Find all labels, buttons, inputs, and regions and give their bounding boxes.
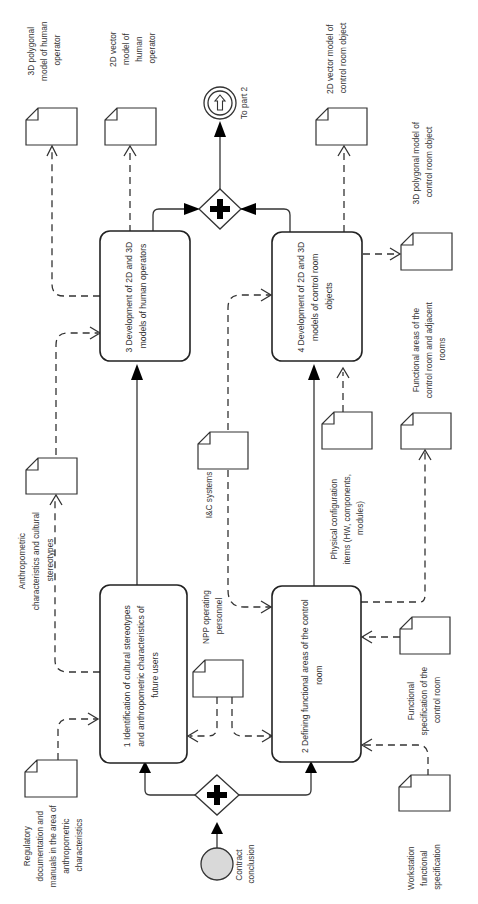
task-3-label-line-1: 3 Development of 2D and 3D — [124, 242, 134, 353]
arrowhead-icon — [240, 203, 256, 215]
doc-areas-label: rooms — [437, 337, 447, 360]
doc-wsspec-label: Workstation — [406, 846, 416, 890]
arrowhead-icon — [211, 822, 223, 834]
document-anthropometric[interactable] — [26, 458, 77, 494]
svg-text:3D polygonal model of cont: 3D polygonal model of control room objec… — [411, 120, 434, 205]
document-npp-personnel[interactable] — [193, 660, 243, 697]
bpmn-diagram: 1 Identification of cultural stereotypes… — [0, 0, 478, 904]
task-2-label-line-1: 2 Defining functional areas of the contr… — [300, 599, 310, 753]
svg-text:Physical configuration ite: Physical configuration items (HW, compon… — [329, 472, 365, 565]
doc-2d-human-label: 2D vector — [108, 31, 118, 67]
arrowhead-icon — [184, 203, 200, 215]
doc-anthropometric-label: characteristics and cultural — [31, 512, 41, 610]
document-physical-config[interactable] — [322, 412, 372, 449]
document-3d-control-room-model[interactable] — [401, 233, 452, 270]
parallel-split-gateway[interactable] — [195, 775, 239, 815]
document-ic-systems[interactable] — [198, 432, 248, 469]
doc-physical-label: items (HW, components, — [342, 474, 352, 564]
svg-text:NPP operating personnel: NPP operating personnel — [201, 588, 224, 644]
arrowhead-icon — [214, 121, 226, 137]
document-functional-areas[interactable] — [401, 413, 451, 449]
doc-2d-human-label: human — [134, 36, 144, 62]
svg-text:Anthropometric characteris: Anthropometric characteristics and cultu… — [17, 510, 55, 611]
task-1-label-line-1: 1 Identification of cultural stereotypes — [122, 605, 132, 747]
doc-funcspec-label: Functional — [406, 682, 416, 720]
svg-text:Workstation functional: Workstation functional specification — [406, 844, 442, 890]
task-2-label-line-2: room — [314, 665, 324, 685]
document-2d-human-model[interactable] — [105, 108, 156, 145]
svg-text:Functional areas of the co: Functional areas of the control room and… — [411, 300, 447, 398]
svg-text:To part 2: To part 2 — [239, 86, 249, 119]
svg-text:Regulatory documentation a: Regulatory documentation and manuals in … — [22, 803, 84, 887]
doc-funcspec-label: control room — [432, 677, 442, 723]
doc-npp-label: personnel — [214, 598, 224, 635]
svg-text:Contract conclusion: Contract conclusion — [234, 844, 256, 884]
doc-wsspec-label: specification — [432, 844, 442, 890]
document-workstation-spec[interactable] — [399, 775, 450, 811]
document-regulatory[interactable] — [25, 760, 77, 797]
doc-regulatory-label: documentation and — [35, 810, 45, 881]
document-3d-human-model[interactable] — [26, 108, 77, 145]
svg-text:2D vector model of hum: 2D vector model of human operator — [108, 29, 157, 67]
doc-regulatory-label: manuals in the area of — [48, 804, 58, 887]
doc-3d-cr-label: control room object — [424, 126, 434, 197]
svg-text:3D polygonal model of huma: 3D polygonal model of human operator — [26, 19, 62, 81]
doc-physical-label: modules) — [355, 501, 365, 535]
doc-ic-label: I&C systems — [204, 472, 214, 519]
svg-text:Functional specification o: Functional specification of the control … — [406, 664, 442, 735]
doc-3d-human-label: model of human — [39, 21, 49, 81]
end-event-label: To part 2 — [239, 86, 249, 119]
doc-areas-label: control room and adjacent — [424, 301, 434, 398]
doc-3d-human-label: 3D polygonal — [26, 27, 36, 76]
doc-anthropometric-label: stereotypes — [45, 539, 55, 582]
document-2d-control-room-model[interactable] — [316, 108, 367, 145]
task-4-label-line-2: models of control room — [310, 253, 320, 340]
doc-2d-cr-label: 2D vector model of — [325, 24, 335, 94]
doc-2d-cr-label: control room object — [338, 22, 348, 93]
task-3-label-line-2: models of human operators — [138, 244, 148, 349]
svg-text:2D vector model of control: 2D vector model of control room object — [325, 22, 348, 94]
doc-regulatory-label: Regulatory — [22, 825, 32, 866]
task-1[interactable]: 1 Identification of cultural stereotypes… — [100, 585, 187, 763]
task-1-label-line-3: future users — [150, 652, 160, 697]
end-event[interactable] — [204, 87, 236, 119]
doc-regulatory-label: anthropometric — [61, 818, 71, 873]
parallel-join-gateway[interactable] — [199, 189, 241, 229]
doc-areas-label: Functional areas of the — [411, 308, 421, 393]
task-4-label-line-1: 4 Development of 2D and 3D — [296, 242, 306, 353]
arrowhead-icon — [308, 364, 320, 380]
task-2[interactable]: 2 Defining functional areas of the contr… — [272, 586, 361, 762]
doc-regulatory-label: characteristics — [74, 818, 84, 871]
svg-text:I&C systems: I&C systems — [204, 472, 214, 519]
doc-wsspec-label: functional — [419, 850, 429, 886]
task-4[interactable]: 4 Development of 2D and 3D models of con… — [272, 232, 362, 361]
arrowhead-icon — [131, 364, 143, 380]
task-1-label-line-2: and anthropometric characteristics of — [136, 605, 146, 747]
doc-npp-label: NPP operating — [201, 590, 211, 644]
start-event-label-line-1: Contract — [234, 849, 244, 881]
doc-2d-human-label: model of — [121, 33, 131, 66]
start-event[interactable] — [201, 848, 233, 880]
task-3[interactable]: 3 Development of 2D and 3D models of hum… — [100, 231, 190, 361]
doc-funcspec-label: specification of the — [419, 666, 429, 735]
doc-2d-human-label: operator — [147, 32, 157, 63]
document-functional-spec[interactable] — [400, 617, 450, 654]
doc-3d-cr-label: 3D polygonal model of — [411, 121, 421, 204]
doc-anthropometric-label: Anthropometric — [17, 533, 27, 589]
doc-physical-label: Physical configuration — [329, 478, 339, 559]
task-4-label-line-3: objects — [324, 282, 334, 309]
start-event-label-line-2: conclusion — [246, 844, 256, 884]
doc-3d-human-label: operator — [52, 34, 62, 65]
